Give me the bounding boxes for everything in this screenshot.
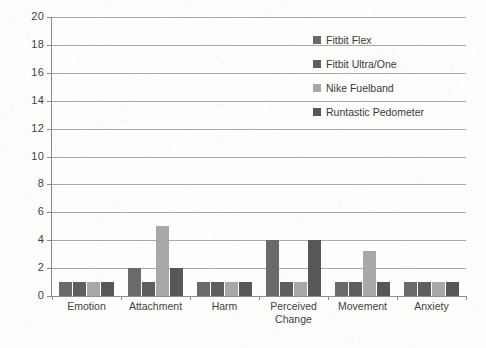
bar — [280, 282, 294, 296]
x-axis-labels: EmotionAttachmentHarmPerceived ChangeMov… — [52, 300, 466, 344]
legend-swatch-icon — [313, 108, 321, 116]
legend-item-label: Fitbit Ultra/One — [326, 58, 397, 70]
bar — [211, 282, 225, 296]
x-axis-tick — [397, 296, 398, 300]
y-axis-tick — [47, 129, 51, 130]
x-axis-tick-label: Harm — [190, 300, 259, 313]
x-axis-tick-label: Attachment — [121, 300, 190, 313]
bar — [225, 282, 239, 296]
bar — [363, 251, 377, 296]
bar — [432, 282, 446, 296]
y-axis-tick-label: 4 — [4, 234, 44, 245]
bar — [170, 268, 184, 296]
legend-swatch-icon — [313, 84, 321, 92]
y-axis-tick — [47, 17, 51, 18]
bar — [87, 282, 101, 296]
bar — [101, 282, 115, 296]
y-axis-tick-label: 14 — [4, 95, 44, 106]
legend-item: Runtastic Pedometer — [313, 100, 463, 124]
y-axis-tick-label: 12 — [4, 123, 44, 134]
x-axis-tick-label: Anxiety — [397, 300, 466, 313]
bar — [308, 240, 322, 296]
y-axis-labels: 02468101214161820 — [0, 0, 44, 348]
legend-item-label: Runtastic Pedometer — [326, 106, 424, 118]
y-axis-tick — [47, 212, 51, 213]
bar — [294, 282, 308, 296]
y-axis-tick-label: 10 — [4, 151, 44, 162]
y-axis-tick — [47, 296, 51, 297]
legend-item: Fitbit Flex — [313, 28, 463, 52]
bar — [197, 282, 211, 296]
y-axis-tick-label: 0 — [4, 290, 44, 301]
y-axis-tick — [47, 73, 51, 74]
legend-item: Nike Fuelband — [313, 76, 463, 100]
x-axis-tick-label: Movement — [328, 300, 397, 313]
legend-item: Fitbit Ultra/One — [313, 52, 463, 76]
bar-chart: 02468101214161820 EmotionAttachmentHarmP… — [0, 0, 486, 348]
bar — [142, 282, 156, 296]
y-axis-tick — [47, 184, 51, 185]
y-axis-tick — [47, 157, 51, 158]
legend-swatch-icon — [313, 36, 321, 44]
y-axis-tick-label: 8 — [4, 178, 44, 189]
bar — [349, 282, 363, 296]
y-axis-tick-label: 16 — [4, 67, 44, 78]
x-axis-tick — [52, 296, 53, 300]
legend-swatch-icon — [313, 60, 321, 68]
y-axis-tick — [47, 45, 51, 46]
bar — [418, 282, 432, 296]
chart-legend: Fitbit FlexFitbit Ultra/OneNike Fuelband… — [313, 28, 463, 124]
bar — [377, 282, 391, 296]
bar — [239, 282, 253, 296]
y-axis-tick-label: 6 — [4, 206, 44, 217]
x-axis-tick — [121, 296, 122, 300]
x-axis-tick — [466, 296, 467, 300]
bar — [156, 226, 170, 296]
bar — [404, 282, 418, 296]
bar — [73, 282, 87, 296]
y-axis-tick — [47, 101, 51, 102]
y-axis-tick-label: 20 — [4, 11, 44, 22]
y-axis-tick-label: 2 — [4, 262, 44, 273]
x-axis-tick — [190, 296, 191, 300]
x-axis-tick — [328, 296, 329, 300]
x-axis-tick-label: Perceived Change — [259, 300, 328, 326]
bar — [446, 282, 460, 296]
x-axis-tick — [259, 296, 260, 300]
bar — [335, 282, 349, 296]
x-axis-tick-label: Emotion — [52, 300, 121, 313]
legend-item-label: Nike Fuelband — [326, 82, 394, 94]
bar — [128, 268, 142, 296]
y-axis-tick-label: 18 — [4, 39, 44, 50]
y-axis-tick — [47, 268, 51, 269]
bar — [266, 240, 280, 296]
legend-item-label: Fitbit Flex — [326, 34, 372, 46]
y-axis-tick — [47, 240, 51, 241]
bar — [59, 282, 73, 296]
